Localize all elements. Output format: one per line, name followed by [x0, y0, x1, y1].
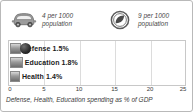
bar-health	[10, 71, 20, 82]
circle-slash-icon	[105, 8, 135, 32]
bar-row: Education 1.8%	[10, 57, 78, 68]
stat-line2: population	[42, 20, 73, 28]
stat-line2: population	[138, 20, 169, 28]
axis-tick: 20	[147, 86, 154, 92]
bar-label-education: Education 1.8%	[25, 59, 78, 66]
plot-area: Defense 1.5% Education 1.8% Health 1.4%	[8, 40, 186, 86]
axis-tick: 0	[8, 86, 11, 92]
stat-line1: 4 per 1000	[42, 12, 73, 20]
infographic-card: 4 per 1000 population 9 per 1000 populat…	[0, 0, 193, 112]
axis-tick: 15	[111, 86, 118, 92]
axis-tick: 25	[180, 86, 187, 92]
bar-chart: Defense 1.5% Education 1.8% Health 1.4%	[8, 40, 186, 86]
x-axis: 0 5 10 15 20 25	[8, 86, 186, 95]
stat-label-secondary: 9 per 1000 population	[135, 12, 169, 28]
bar-row: Defense 1.5%	[10, 43, 69, 54]
chart-caption: Defense, Health, Education spending as %…	[6, 96, 191, 103]
stat-line1: 9 per 1000	[138, 12, 169, 20]
marker-dot-icon	[20, 43, 31, 54]
stats-row: 4 per 1000 population 9 per 1000 populat…	[1, 1, 193, 39]
bar-education	[10, 57, 23, 68]
axis-tick: 5	[42, 86, 45, 92]
bar-series: Defense 1.5% Education 1.8% Health 1.4%	[9, 41, 185, 85]
car-icon	[9, 8, 39, 32]
bar-row: Health 1.4%	[10, 71, 62, 82]
bar-defense	[10, 43, 21, 54]
bar-label-health: Health 1.4%	[22, 73, 62, 80]
stat-item-car: 4 per 1000 population	[1, 8, 101, 32]
axis-tick: 10	[76, 86, 83, 92]
stat-label-car: 4 per 1000 population	[39, 12, 73, 28]
stat-item-secondary: 9 per 1000 population	[101, 8, 193, 32]
